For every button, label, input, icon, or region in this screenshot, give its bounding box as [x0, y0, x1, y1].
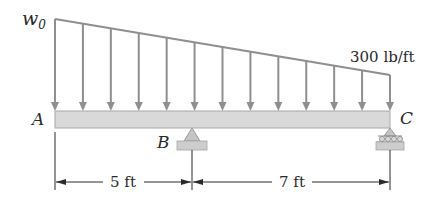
distributed-load	[51, 19, 394, 111]
load-arrow-head-icon	[79, 102, 87, 111]
load-arrow-head-icon	[191, 102, 199, 111]
point-label-a: A	[30, 109, 44, 129]
load-arrow-head-icon	[219, 102, 227, 111]
dimension-label-bc: 7 ft	[279, 173, 305, 191]
beam	[55, 111, 390, 128]
load-arrow-head-icon	[358, 102, 366, 111]
load-label-right: 300 lb/ft	[350, 48, 414, 66]
point-label-b: B	[156, 132, 170, 152]
load-arrow-head-icon	[246, 102, 254, 111]
roller-support-c	[376, 128, 404, 150]
load-arrow-head-icon	[135, 102, 143, 111]
load-arrow-head-icon	[274, 102, 282, 111]
point-label-c: C	[400, 108, 413, 128]
load-arrow-head-icon	[51, 102, 59, 111]
load-arrows	[51, 19, 394, 111]
dimension-label-ab: 5 ft	[110, 173, 136, 191]
beam-diagram: w0 300 lb/ft A B C 5 ft 7 ft	[0, 0, 438, 200]
load-arrow-head-icon	[386, 102, 394, 111]
load-label-w0: w0	[22, 7, 46, 32]
load-arrow-head-icon	[163, 102, 171, 111]
load-arrow-head-icon	[330, 102, 338, 111]
load-arrow-head-icon	[107, 102, 115, 111]
load-arrow-head-icon	[302, 102, 310, 111]
pin-support-b	[177, 128, 207, 150]
